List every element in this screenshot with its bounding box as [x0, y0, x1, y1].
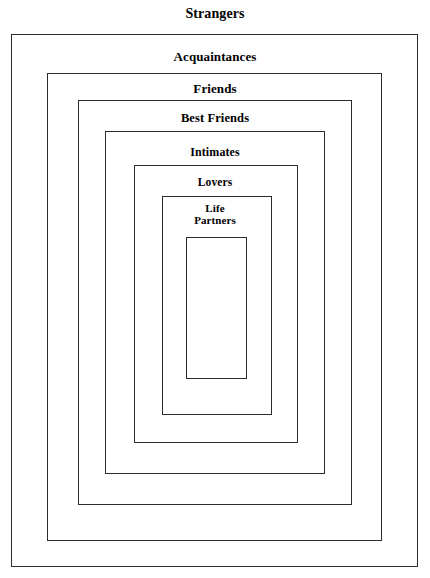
ring-label-best-friends: Best Friends: [0, 112, 430, 126]
ring-label-lovers: Lovers: [0, 176, 430, 188]
ring-label-acquaintances: Acquaintances: [0, 50, 430, 64]
ring-label-intimates: Intimates: [0, 146, 430, 159]
ring-rect-life-partners: [186, 237, 247, 379]
ring-label-life-partners: Life Partners: [0, 203, 430, 227]
ring-label-strangers: Strangers: [0, 6, 430, 22]
nested-rectangles-diagram: Strangers Acquaintances Friends Best Fri…: [0, 0, 430, 578]
ring-label-friends: Friends: [0, 82, 430, 96]
